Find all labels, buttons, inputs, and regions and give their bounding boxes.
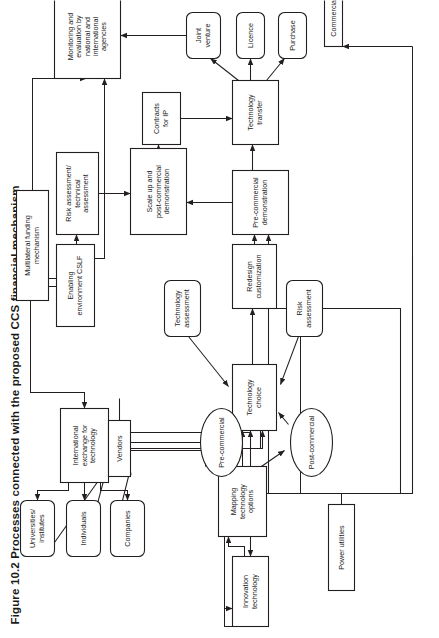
node-vendors: Vendors (108, 420, 130, 476)
node-companies: Companies (110, 500, 144, 556)
node-power_utilities: Power utilities (328, 504, 354, 590)
node-risk_tech_assess: Risk assessment/technicalassessment (56, 152, 98, 234)
node-pre_comm_demo: Pre-commercialdemonstration (232, 170, 288, 234)
node-purchase: Purchase (278, 12, 306, 58)
node-redesign: Redesigncustomization (232, 244, 276, 308)
node-label: Purchase (287, 20, 296, 50)
flowchart-svg: Power utilitiesInnovationtechnologyMappi… (0, 0, 439, 638)
diagram-stage: Figure 10.2 Processes connected with the… (0, 0, 439, 638)
node-label: Vendors (114, 434, 123, 461)
node-multilateral: Multilateral fundingmechanism (16, 190, 48, 300)
node-label: Licence (245, 23, 254, 48)
node-innovation: Innovationtechnology (232, 556, 268, 626)
node-label: Technologyassessment (173, 289, 190, 327)
node-individuals: Individuals (66, 500, 100, 556)
node-label: Innovationtechnology (241, 573, 258, 608)
figure-page: Figure 10.2 Processes connected with the… (0, 0, 439, 638)
node-label: Universities/institutes (28, 508, 45, 547)
node-joint_venture: Jointventure (186, 12, 220, 58)
node-scale_up: Scale up andpost-commercialdemonstration (130, 148, 186, 234)
node-enabling_env: Enablingenvironment CSLF (56, 244, 94, 326)
node-label: Power utilities (336, 524, 345, 569)
node-pre_commercial: Pre-commercial (200, 408, 242, 476)
node-risk_assessment: Riskassessment (286, 280, 322, 336)
node-label: Scale up andpost-commercialdemonstration (145, 164, 171, 217)
node-layer: Power utilitiesInnovationtechnologyMappi… (16, 0, 354, 626)
node-licence: Licence (236, 12, 264, 58)
node-label: Pre-commercialdemonstration (251, 176, 268, 227)
node-tech_transfer: Technologytransfer (232, 80, 278, 144)
node-monitoring: Monitoring andevaluation bynational andi… (54, 0, 120, 78)
node-label: Post-commercial (306, 415, 315, 469)
node-label: Redesigncustomization (245, 254, 262, 298)
node-contracts_ip: Contractsfor IP (142, 92, 180, 144)
node-tech_choice: Technologychoice (232, 364, 276, 430)
node-post_commercial: Post-commercial (290, 408, 332, 476)
node-universities: Universities/institutes (20, 500, 54, 556)
node-label: Companies (122, 509, 131, 546)
node-tech_assessment: Technologyassessment (164, 280, 200, 336)
node-commercial: Commercial (324, 0, 342, 46)
node-label: Pre-commercial (216, 416, 225, 467)
node-intl_exchange: Internationalexchange fortechnology (60, 408, 108, 482)
node-label: Commercial (328, 0, 337, 36)
node-label: Internationalexchange fortechnology (71, 424, 97, 466)
node-label: Individuals (78, 511, 87, 545)
